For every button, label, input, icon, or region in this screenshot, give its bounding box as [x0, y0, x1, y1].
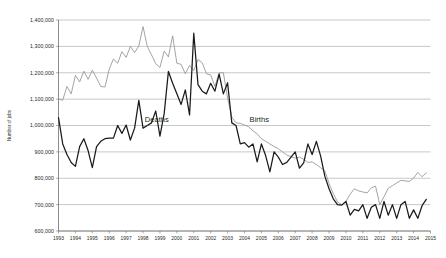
x-tick-label: 2000	[171, 236, 182, 241]
x-tick-label: 2004	[239, 236, 250, 241]
data-series	[59, 27, 427, 219]
y-axis-title: Number of jobs	[7, 109, 12, 141]
x-tick-label: 1995	[87, 236, 98, 241]
series-label-births: Births	[250, 115, 270, 124]
x-tick-label: 2014	[408, 236, 419, 241]
x-axis-tick-labels: 1993199419951996199719981999200020012002…	[53, 236, 436, 241]
y-tick-label: 1,100,000	[30, 96, 54, 102]
series-line-births	[59, 27, 427, 205]
y-tick-label: 700,000	[35, 202, 54, 208]
x-tick-label: 1993	[53, 236, 64, 241]
x-tick-label: 2006	[273, 236, 284, 241]
x-tick-label: 2012	[374, 236, 385, 241]
x-tick-label: 2002	[205, 236, 216, 241]
gridlines	[59, 20, 431, 231]
x-tick-label: 1996	[104, 236, 115, 241]
x-tick-label: 2010	[340, 236, 351, 241]
y-tick-label: 900,000	[35, 149, 54, 155]
x-tick-label: 2009	[323, 236, 334, 241]
y-tick-label: 1,400,000	[30, 17, 54, 23]
y-axis-tick-labels: 1,400,0001,300,0001,200,0001,100,0001,00…	[30, 17, 54, 234]
series-label-deaths: Deaths	[145, 115, 169, 124]
y-tick-label: 600,000	[35, 228, 54, 234]
x-tick-label: 1999	[154, 236, 165, 241]
x-tick-label: 1998	[137, 236, 148, 241]
x-tick-label: 2015	[425, 236, 436, 241]
x-tick-label: 2007	[290, 236, 301, 241]
x-tick-label: 2005	[256, 236, 267, 241]
x-tick-label: 1994	[70, 236, 81, 241]
x-tick-label: 2001	[188, 236, 199, 241]
x-tick-label: 2003	[222, 236, 233, 241]
series-annotations: DeathsBirths	[145, 115, 269, 124]
chart-container: 1,400,0001,300,0001,200,0001,100,0001,00…	[0, 0, 446, 258]
y-tick-label: 800,000	[35, 175, 54, 181]
y-axis-title-text: Number of jobs	[7, 109, 12, 141]
y-tick-label: 1,000,000	[30, 122, 54, 128]
x-tick-label: 1997	[121, 236, 132, 241]
births-deaths-line-chart: 1,400,0001,300,0001,200,0001,100,0001,00…	[0, 0, 446, 258]
y-tick-label: 1,300,000	[30, 43, 54, 49]
tick-marks	[56, 20, 430, 233]
x-tick-label: 2008	[307, 236, 318, 241]
x-tick-label: 2011	[358, 236, 369, 241]
y-tick-label: 1,200,000	[30, 70, 54, 76]
x-tick-label: 2013	[391, 236, 402, 241]
